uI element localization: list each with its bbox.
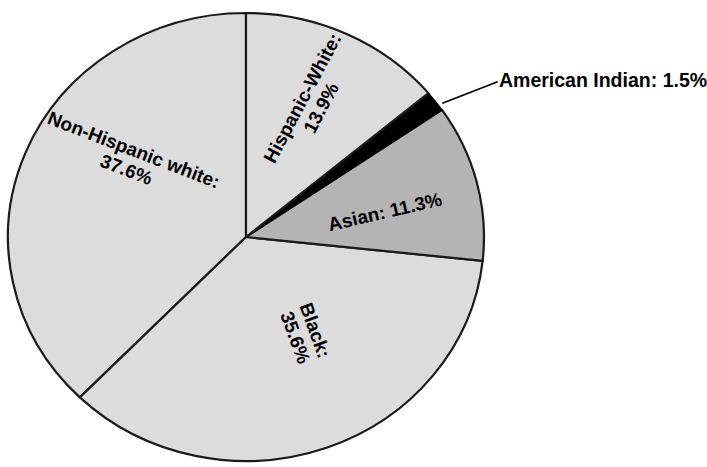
- slice-label-american-indian-name: American Indian:: [499, 69, 657, 91]
- slice-label-american-indian: American Indian: 1.5%: [499, 68, 707, 93]
- slice-label-american-indian-percent: 1.5%: [663, 69, 707, 91]
- pie-slices: [8, 13, 484, 461]
- callout-leader-line: [443, 82, 497, 103]
